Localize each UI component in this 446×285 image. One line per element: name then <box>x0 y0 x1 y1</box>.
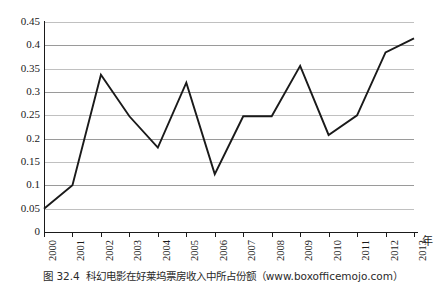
x-axis-tick-label: 2005 <box>190 240 201 261</box>
y-axis-tick-label: 0.35 <box>0 63 40 74</box>
x-axis-tick <box>357 233 358 237</box>
y-axis-tick-label: 0.05 <box>0 203 40 214</box>
figure-caption: 图 32.4科幻电影在好莱坞票房收入中所占份额（www.boxofficemoj… <box>0 270 446 283</box>
plot-area <box>44 22 414 232</box>
x-axis-tick-label: 2007 <box>247 240 258 261</box>
x-axis-tick-label: 2006 <box>219 240 230 261</box>
x-axis-tick <box>329 233 330 237</box>
x-axis-tick <box>300 233 301 237</box>
gridline <box>44 185 414 186</box>
y-axis-tick-label: 0.25 <box>0 109 40 120</box>
x-axis-tick <box>129 233 130 237</box>
caption-text: 科幻电影在好莱坞票房收入中所占份额（www.boxofficemojo.com） <box>86 270 403 282</box>
caption-number: 图 32.4 <box>43 270 80 282</box>
x-axis-tick-label: 2009 <box>304 240 315 261</box>
x-axis-tick-label: 2008 <box>276 240 287 261</box>
gridline <box>44 115 414 116</box>
x-axis-tick-label: 2004 <box>162 240 173 261</box>
y-axis-tick-label: 0.4 <box>0 39 40 50</box>
x-axis-tick <box>101 233 102 237</box>
x-axis-tick <box>272 233 273 237</box>
gridline <box>44 92 414 93</box>
x-axis-tick <box>414 233 415 237</box>
x-axis-tick <box>215 233 216 237</box>
x-axis-tick-label: 2001 <box>76 240 87 261</box>
gridline <box>44 45 414 46</box>
y-axis-tick-label: 0.45 <box>0 16 40 27</box>
y-axis-tick-label: 0 <box>0 226 40 237</box>
x-axis-tick-label: 2011 <box>361 240 372 261</box>
x-axis-tick <box>72 233 73 237</box>
gridline <box>44 22 414 23</box>
x-axis-tick-label: 2003 <box>133 240 144 261</box>
y-axis-tick-label: 0.2 <box>0 133 40 144</box>
x-axis-tick-label: 2002 <box>105 240 116 261</box>
x-axis-tick-label: 2010 <box>333 240 344 261</box>
gridline <box>44 139 414 140</box>
y-axis-tick-label: 0.3 <box>0 86 40 97</box>
gridline <box>44 162 414 163</box>
x-axis-tick <box>44 233 45 237</box>
x-axis-unit-label: 年 <box>422 236 433 247</box>
y-axis-tick-label: 0.15 <box>0 156 40 167</box>
figure-container: 00.050.10.150.20.250.30.350.40.45 200020… <box>0 0 446 285</box>
y-axis-tick-label: 0.1 <box>0 179 40 190</box>
x-axis-tick-label: 2000 <box>48 240 59 261</box>
y-axis-line <box>44 21 45 233</box>
gridline <box>44 209 414 210</box>
x-axis-tick <box>386 233 387 237</box>
x-axis-tick <box>186 233 187 237</box>
gridline <box>44 69 414 70</box>
x-axis-tick <box>158 233 159 237</box>
x-axis-tick <box>243 233 244 237</box>
x-axis-tick-label: 2012 <box>390 240 401 261</box>
